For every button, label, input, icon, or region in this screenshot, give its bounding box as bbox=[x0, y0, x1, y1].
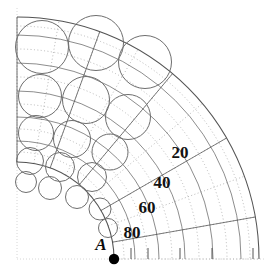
angular-label-80: 80 bbox=[124, 224, 141, 241]
angular-label-60: 60 bbox=[139, 199, 156, 216]
point-a-label: A bbox=[95, 236, 106, 253]
point-a-marker bbox=[109, 254, 119, 264]
angular-label-40: 40 bbox=[154, 174, 171, 191]
polar-circle-packing-figure: 20 40 60 80 A bbox=[0, 0, 268, 275]
baseline-ticks bbox=[131, 248, 253, 259]
angular-label-20: 20 bbox=[172, 144, 189, 161]
